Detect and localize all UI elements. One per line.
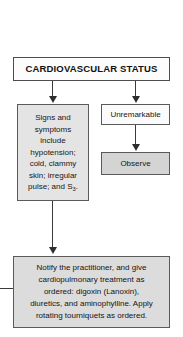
connector-header-to-signs-line [52,81,53,97]
notify-line-4: diuretics, and aminophylline. Apply [30,298,153,310]
signs-text-block: Signs and symptoms include hypotension; … [28,112,78,193]
notify-line-2: cardiopulmonary treatment as [30,274,153,286]
arrowhead-header-to-unremarkable [132,96,140,103]
arrowhead-header-to-signs [49,96,57,103]
signs-line-7-subscript: 3 [73,186,76,192]
signs-line-7: pulse; and S3. [28,181,78,193]
connector-unremarkable-to-observe-line [135,125,136,145]
notify-text-block: Notify the practitioner, and give cardio… [30,262,153,322]
signs-line-7-pre: pulse; and S [28,182,72,191]
signs-line-2: symptoms [28,124,78,136]
connector-external-into-notify [0,288,13,289]
header-title: CARDIOVASCULAR STATUS [26,63,158,74]
signs-line-3: include [28,135,78,147]
signs-line-4: hypotension; [28,147,78,159]
unremarkable-label: Unremarkable [110,110,160,120]
signs-line-1: Signs and [28,112,78,124]
signs-line-7-post: . [76,182,78,191]
arrowhead-signs-to-notify [49,247,57,254]
connector-header-to-unremarkable-line [135,81,136,97]
connector-signs-to-notify-line [52,201,53,248]
notify-line-1: Notify the practitioner, and give [30,262,153,274]
node-unremarkable: Unremarkable [101,104,170,125]
notify-line-5: rotating tourniquets as ordered. [30,310,153,322]
arrowhead-unremarkable-to-observe [132,144,140,151]
node-notify-practitioner: Notify the practitioner, and give cardio… [13,256,170,328]
node-observe: Observe [101,152,170,175]
observe-label: Observe [120,159,150,169]
signs-line-6: skin; irregular [28,170,78,182]
node-signs-and-symptoms: Signs and symptoms include hypotension; … [17,104,89,201]
flowchart-canvas: CARDIOVASCULAR STATUS Signs and symptoms… [0,0,183,337]
signs-line-5: cold, clammy [28,158,78,170]
node-cardiovascular-status: CARDIOVASCULAR STATUS [13,57,170,81]
notify-line-3: ordered: digoxin (Lanoxin), [30,286,153,298]
